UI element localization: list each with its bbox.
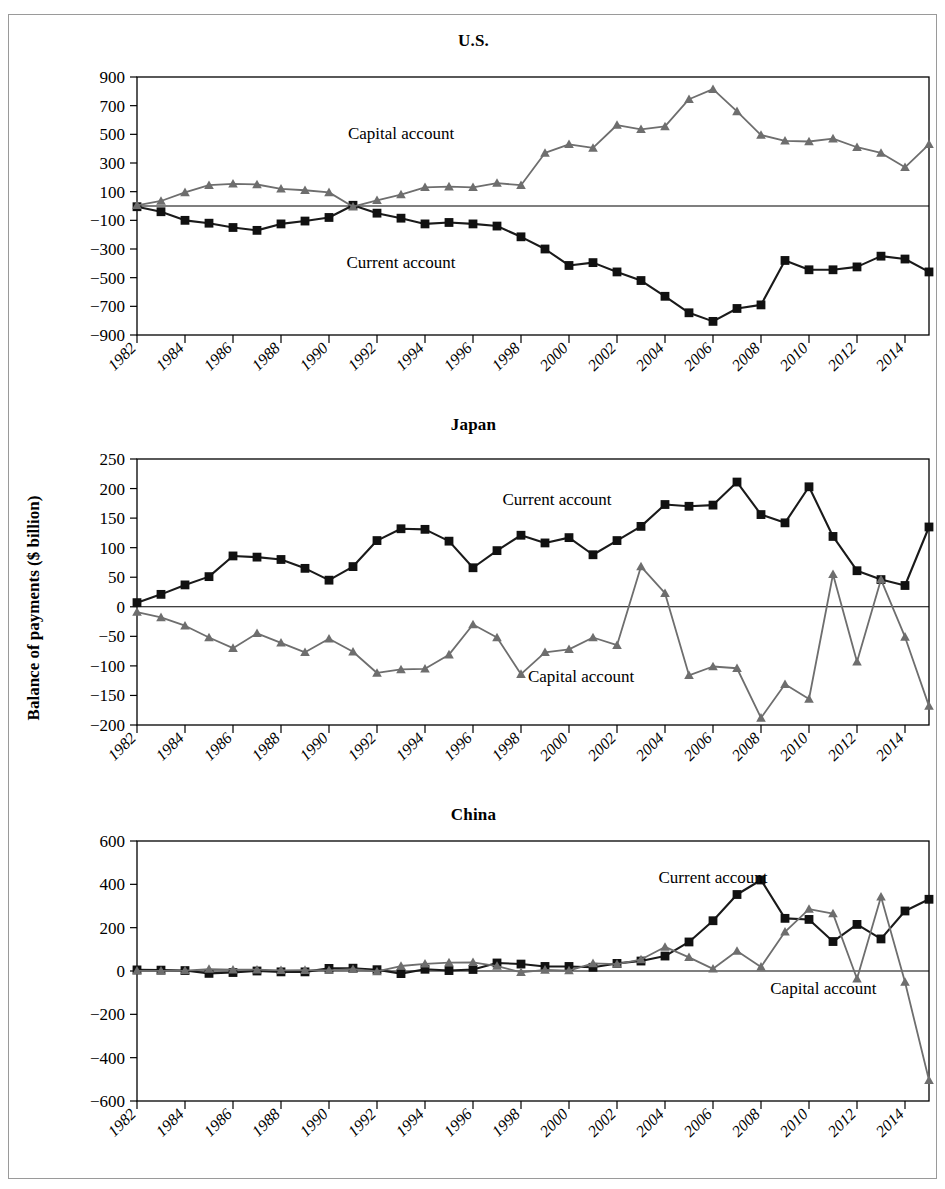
data-point-current-account <box>157 590 166 599</box>
data-point-current-account <box>517 531 526 540</box>
x-tick-label: 1996 <box>440 729 475 764</box>
data-point-current-account <box>781 518 790 527</box>
x-tick-label: 1990 <box>296 339 331 374</box>
y-tick-label: −100 <box>90 657 125 676</box>
data-point-current-account <box>325 213 334 222</box>
annotation-capital-account: Capital account <box>528 667 634 686</box>
x-tick-label: 1992 <box>344 1105 379 1140</box>
data-point-current-account <box>565 533 574 542</box>
data-point-capital-account <box>900 632 910 641</box>
data-point-current-account <box>301 564 310 573</box>
data-point-current-account <box>661 500 670 509</box>
data-point-capital-account <box>612 120 622 129</box>
x-tick-label: 2002 <box>584 1105 619 1140</box>
series-line-current-account <box>137 880 929 974</box>
series-line-current-account <box>137 205 929 321</box>
data-point-current-account <box>493 222 502 231</box>
annotation-current-account: Current account <box>502 490 611 509</box>
data-point-current-account <box>853 566 862 575</box>
x-tick-label: 2006 <box>680 339 715 374</box>
data-point-capital-account <box>132 607 142 616</box>
data-point-current-account <box>517 232 526 241</box>
data-point-current-account <box>373 209 382 218</box>
data-point-current-account <box>565 261 574 270</box>
data-point-capital-account <box>900 977 910 986</box>
y-tick-label: −200 <box>90 716 125 735</box>
data-point-current-account <box>685 938 694 947</box>
y-tick-label: 300 <box>100 154 126 173</box>
plot-jp: −200−150−100−500501001502002501982198419… <box>9 407 938 809</box>
data-point-current-account <box>325 576 334 585</box>
data-point-current-account <box>901 907 910 916</box>
y-tick-label: −700 <box>90 297 125 316</box>
x-tick-label: 1988 <box>248 339 283 374</box>
data-point-capital-account <box>564 645 574 654</box>
y-tick-label: −100 <box>90 211 125 230</box>
y-tick-label: 150 <box>100 509 126 528</box>
data-point-current-account <box>613 536 622 545</box>
x-tick-label: 1998 <box>488 339 523 374</box>
data-point-current-account <box>541 539 550 548</box>
data-point-capital-account <box>204 633 214 642</box>
data-point-current-account <box>589 258 598 267</box>
data-point-capital-account <box>636 562 646 571</box>
data-point-current-account <box>205 219 214 228</box>
x-tick-label: 2010 <box>776 339 811 374</box>
data-point-capital-account <box>924 140 934 149</box>
x-tick-label: 1988 <box>248 1105 283 1140</box>
figure-frame: Balance of payments ($ billion) U.S. −90… <box>8 14 937 1179</box>
data-point-capital-account <box>780 679 790 688</box>
data-point-current-account <box>733 478 742 487</box>
y-tick-label: −600 <box>90 1092 125 1111</box>
y-tick-label: 200 <box>100 919 126 938</box>
x-tick-label: 2012 <box>824 1105 859 1140</box>
data-point-current-account <box>829 532 838 541</box>
x-tick-label: 1990 <box>296 1105 331 1140</box>
data-point-capital-account <box>876 892 886 901</box>
x-tick-label: 2010 <box>776 1105 811 1140</box>
data-point-current-account <box>925 895 934 904</box>
data-point-current-account <box>397 524 406 533</box>
y-tick-label: 100 <box>100 539 126 558</box>
x-tick-label: 1994 <box>392 339 427 374</box>
data-point-capital-account <box>828 134 838 143</box>
data-point-current-account <box>229 223 238 232</box>
data-point-capital-account <box>924 1075 934 1084</box>
data-point-current-account <box>757 301 766 310</box>
data-point-current-account <box>781 256 790 265</box>
y-tick-label: −900 <box>90 326 125 345</box>
data-point-current-account <box>373 536 382 545</box>
data-point-capital-account <box>492 633 502 642</box>
x-tick-label: 1984 <box>152 339 187 374</box>
y-tick-label: −200 <box>90 1005 125 1024</box>
x-tick-label: 2000 <box>536 729 571 764</box>
data-point-current-account <box>709 317 718 326</box>
data-point-capital-account <box>708 84 718 93</box>
data-point-capital-account <box>564 140 574 149</box>
data-point-current-account <box>541 245 550 254</box>
x-tick-label: 1990 <box>296 729 331 764</box>
data-point-capital-account <box>804 904 814 913</box>
data-point-current-account <box>445 218 454 227</box>
x-tick-label: 2012 <box>824 339 859 374</box>
data-point-current-account <box>661 292 670 301</box>
annotation-current-account: Current account <box>346 253 455 272</box>
data-point-current-account <box>397 214 406 223</box>
x-tick-label: 2000 <box>536 339 571 374</box>
data-point-current-account <box>253 553 262 562</box>
chart-panel-us: U.S. −900−700−500−300−100100300500700900… <box>9 15 938 415</box>
x-tick-label: 2004 <box>632 729 667 764</box>
data-point-current-account <box>469 563 478 572</box>
x-tick-label: 2000 <box>536 1105 571 1140</box>
y-tick-label: −50 <box>98 627 125 646</box>
x-tick-label: 1984 <box>152 729 187 764</box>
data-point-current-account <box>517 960 526 969</box>
data-point-capital-account <box>324 634 334 643</box>
x-tick-label: 2010 <box>776 729 811 764</box>
x-tick-label: 1986 <box>200 729 235 764</box>
chart-panel-jp: Japan −200−150−100−500501001502002501982… <box>9 407 938 809</box>
x-tick-label: 2008 <box>728 1105 763 1140</box>
data-point-current-account <box>421 525 430 534</box>
data-point-capital-account <box>468 620 478 629</box>
data-point-current-account <box>421 220 430 229</box>
